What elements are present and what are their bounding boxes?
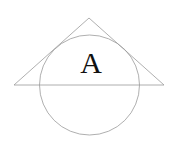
geometry-figure: A: [0, 0, 175, 153]
point-label-a: A: [80, 46, 102, 79]
diagram-canvas: A: [0, 0, 175, 153]
